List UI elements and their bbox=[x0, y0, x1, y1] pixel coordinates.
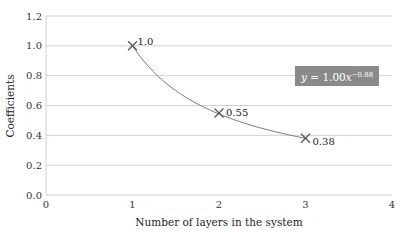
chart: 0.00.20.40.60.81.01.2 01234 1.00.550.38 … bbox=[0, 0, 406, 236]
y-axis-ticks: 0.00.20.40.60.81.01.2 bbox=[26, 11, 42, 201]
y-tick-label: 0.0 bbox=[26, 190, 42, 201]
x-tick-label: 1 bbox=[129, 199, 135, 210]
trendline-curve bbox=[133, 46, 306, 138]
data-label: 0.38 bbox=[313, 136, 335, 147]
gridlines bbox=[46, 16, 392, 195]
y-tick-label: 0.4 bbox=[26, 130, 42, 141]
x-tick-label: 2 bbox=[216, 199, 222, 210]
trendline-equation-label: y = 1.00x−0.88 bbox=[295, 66, 379, 86]
x-tick-label: 3 bbox=[302, 199, 308, 210]
x-axis-title: Number of layers in the system bbox=[135, 216, 302, 228]
x-tick-label: 4 bbox=[389, 199, 395, 210]
data-markers: 1.00.550.38 bbox=[128, 36, 335, 147]
equation-exponent: −0.88 bbox=[352, 71, 373, 79]
y-tick-label: 0.2 bbox=[26, 160, 42, 171]
x-tick-label: 0 bbox=[43, 199, 49, 210]
y-tick-label: 1.2 bbox=[26, 11, 42, 22]
data-label: 1.0 bbox=[138, 36, 154, 47]
y-axis-title: Coefficients bbox=[4, 74, 16, 137]
data-label: 0.55 bbox=[226, 107, 248, 118]
y-tick-label: 0.6 bbox=[26, 100, 42, 111]
equation-prefix: y = 1.00x bbox=[301, 71, 352, 83]
x-axis-ticks: 01234 bbox=[43, 199, 395, 210]
y-tick-label: 0.8 bbox=[26, 70, 42, 81]
y-tick-label: 1.0 bbox=[26, 40, 42, 51]
